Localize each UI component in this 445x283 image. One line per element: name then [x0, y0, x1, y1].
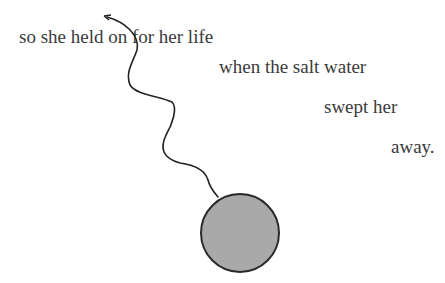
balloon-circle [201, 194, 279, 272]
balloon-string [107, 17, 218, 197]
balloon-illustration [0, 0, 445, 283]
